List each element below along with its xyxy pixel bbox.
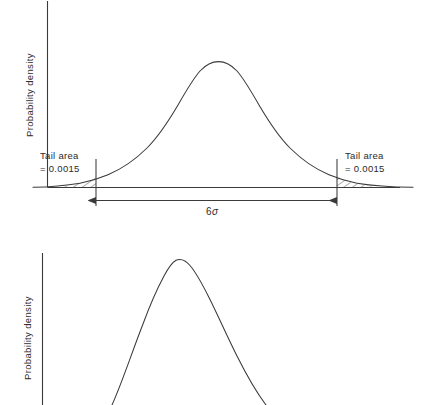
right-tail-annotation-line2: = 0.0015 (345, 163, 385, 176)
right-tail-annotation: Tail area = 0.0015 (345, 150, 385, 175)
panel2-y-axis-label: Probability density (22, 296, 33, 380)
left-tail-annotation-line1: Tail area (40, 150, 80, 163)
skewed-curve (112, 259, 266, 405)
left-tail-annotation-line2: = 0.0015 (40, 163, 80, 176)
left-tail-annotation: Tail area = 0.0015 (40, 150, 80, 175)
normal-distribution-panel (33, 1, 413, 206)
figure-canvas (0, 0, 448, 405)
skewed-distribution-panel (43, 253, 267, 405)
panel1-y-axis-label: Probability density (24, 53, 35, 137)
six-sigma-span-label: 6σ (206, 206, 218, 217)
sigma-symbol: σ (212, 206, 218, 217)
right-tail-annotation-line1: Tail area (345, 150, 385, 163)
statistics-figure: Probability density Tail area = 0.0015 T… (0, 0, 448, 405)
